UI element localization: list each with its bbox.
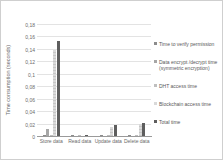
- gridline: [37, 36, 151, 37]
- legend-swatch: [154, 42, 157, 45]
- legend-swatch: [154, 102, 157, 105]
- legend-swatch: [154, 84, 157, 87]
- legend-item: Time to verify permission: [154, 41, 222, 47]
- bar-chart-figure: Time consumption (seconds) Time to verif…: [0, 0, 223, 160]
- legend-swatch: [154, 60, 157, 63]
- y-tick-label: 0,04: [19, 109, 35, 115]
- legend-label: Total time: [159, 119, 180, 125]
- x-category-label: Read data: [65, 138, 95, 144]
- legend-swatch: [154, 120, 157, 123]
- y-tick-label: 0,06: [19, 96, 35, 102]
- legend-item: Blockchain access time: [154, 101, 222, 107]
- y-tick-label: 0,02: [19, 121, 35, 127]
- legend-item: Data encrypt /decrypt time (symmetric en…: [154, 59, 222, 72]
- x-category-label: Update data: [93, 138, 123, 144]
- legend-item: DHT access time: [154, 83, 222, 89]
- y-tick-label: 0,14: [19, 46, 35, 52]
- x-category-label: Store data: [36, 138, 66, 144]
- y-tick-label: 0,18: [19, 22, 35, 28]
- bar-update-data-s4: [114, 125, 117, 136]
- legend-label: Data encrypt /decrypt time (symmetric en…: [159, 59, 222, 72]
- plot-area: [37, 24, 151, 136]
- y-tick-label: 0,1: [19, 71, 35, 77]
- gridline: [37, 24, 151, 25]
- legend-label: Blockchain access time: [159, 101, 211, 107]
- y-tick-label: 0,08: [19, 84, 35, 90]
- y-tick-label: 0,16: [19, 34, 35, 40]
- y-tick-label: 0,12: [19, 59, 35, 65]
- x-category-label: Delete data: [122, 138, 152, 144]
- x-axis-line: [37, 136, 152, 137]
- bar-store-data-s4: [57, 41, 60, 136]
- y-tick-label: 0: [19, 134, 35, 140]
- legend-label: DHT access time: [159, 83, 197, 89]
- y-axis-title: Time consumption (seconds): [5, 45, 11, 115]
- legend: Time to verify permissionData encrypt /d…: [154, 41, 222, 125]
- legend-label: Time to verify permission: [159, 41, 214, 47]
- legend-item: Total time: [154, 119, 222, 125]
- bar-delete-data-s4: [142, 123, 145, 136]
